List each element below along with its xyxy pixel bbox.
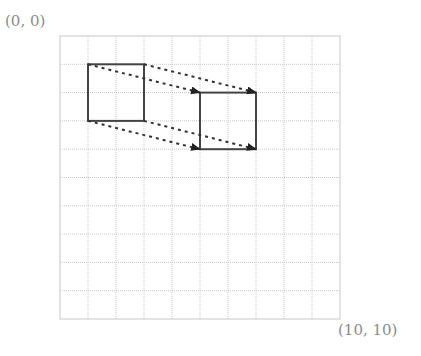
grid-diagram xyxy=(0,0,421,356)
